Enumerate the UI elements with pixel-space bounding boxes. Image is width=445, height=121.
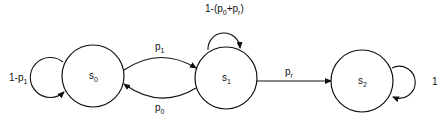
edge-label-s0-s0: 1-p1 (9, 72, 27, 85)
edge-label-s1-s0: p0 (155, 102, 165, 115)
edge-s1-s0 (124, 84, 196, 98)
edge-s0-s1 (124, 57, 196, 70)
edge-s0-s0 (30, 57, 64, 97)
edge-s2-s2 (392, 66, 415, 98)
edge-label-s1-s1: 1-(p0+pr) (205, 3, 244, 16)
state-diagram: s0 s1 s2 1-p1 p1 p0 1-(p0+pr) pr 1 (0, 0, 445, 121)
edge-label-s0-s1: p1 (155, 41, 165, 54)
edge-label-s1-s2: pr (285, 66, 294, 79)
edge-label-s2-s2: 1 (432, 76, 438, 87)
